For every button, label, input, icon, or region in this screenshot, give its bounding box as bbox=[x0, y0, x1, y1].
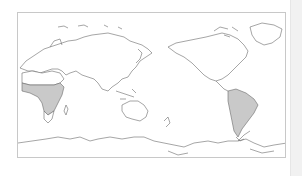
australia bbox=[122, 101, 148, 121]
new-zealand bbox=[164, 117, 170, 127]
africa-shaded-region bbox=[22, 83, 64, 115]
madagascar bbox=[64, 105, 68, 115]
vertical-scrollbar[interactable] bbox=[290, 0, 302, 176]
world-map-svg bbox=[18, 13, 286, 158]
north-america bbox=[168, 33, 248, 81]
south-america-shaded-region bbox=[228, 89, 258, 137]
arctic-islands bbox=[58, 25, 122, 29]
greenland bbox=[250, 23, 282, 45]
north-africa bbox=[22, 71, 64, 85]
world-map bbox=[17, 12, 286, 158]
antarctica-lower bbox=[168, 149, 274, 155]
indonesia bbox=[116, 89, 136, 99]
central-america bbox=[216, 81, 228, 91]
antarctica bbox=[18, 137, 286, 147]
